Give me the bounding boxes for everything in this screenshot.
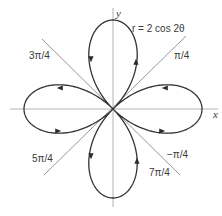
- plot-canvas: y x r = 2 cos 2θ π/4 3π/4 5π/4 −π/4 7π/4: [0, 0, 222, 216]
- angle-label-7pi-over-4: 7π/4: [149, 167, 170, 178]
- arrowhead-icon: [133, 59, 138, 65]
- equation-label: r = 2 cos 2θ: [132, 23, 185, 34]
- angle-label-pi-over-4: π/4: [174, 50, 190, 61]
- arrowhead-icon: [134, 158, 139, 164]
- angle-label-neg-pi-over-4: −π/4: [167, 149, 189, 160]
- y-axis-label: y: [115, 7, 121, 19]
- x-axis-label: x: [212, 108, 218, 120]
- guide-line-pi-over-4: [44, 36, 186, 175]
- angle-label-3pi-over-4: 3π/4: [29, 50, 50, 61]
- angle-label-5pi-over-4: 5π/4: [32, 153, 53, 164]
- arrowhead-icon: [162, 85, 168, 90]
- arrowhead-icon: [57, 85, 63, 90]
- polar-rose-figure: y x r = 2 cos 2θ π/4 3π/4 5π/4 −π/4 7π/4: [0, 0, 222, 216]
